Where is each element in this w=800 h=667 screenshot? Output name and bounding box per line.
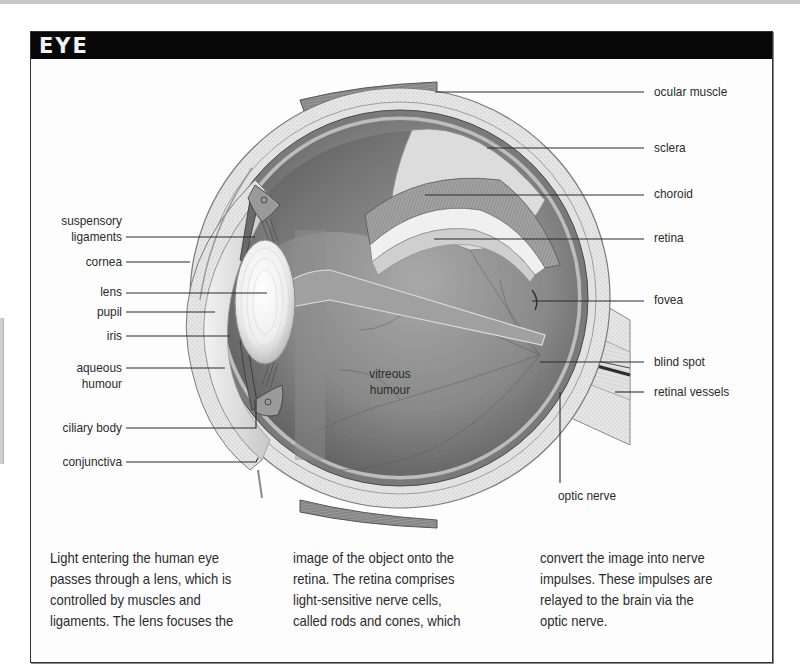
caption-line: controlled by muscles and (50, 590, 255, 611)
caption-line: Light entering the human eye (50, 548, 255, 569)
label-aqueous-humour: aqueous humour (34, 360, 122, 392)
caption-line: optic nerve. (540, 611, 745, 632)
label-retinal-vessels: retinal vessels (654, 384, 729, 400)
label-fovea: fovea (654, 292, 683, 308)
caption-line: ligaments. The lens focuses the (50, 611, 255, 632)
label-line: humour (34, 376, 122, 392)
label-choroid: choroid (654, 186, 693, 202)
caption-line: called rods and cones, which (293, 611, 498, 632)
label-line: vitreous (359, 366, 421, 382)
caption-line: retina. The retina comprises (293, 569, 498, 590)
label-optic-nerve: optic nerve (558, 488, 616, 504)
label-lens: lens (34, 284, 122, 300)
label-iris: iris (34, 328, 122, 344)
label-blind-spot: blind spot (654, 354, 705, 370)
label-vitreous-humour: vitreous humour (359, 366, 421, 398)
label-cornea: cornea (34, 254, 122, 270)
label-ciliary-body: ciliary body (34, 420, 122, 436)
label-line: aqueous (34, 360, 122, 376)
label-sclera: sclera (654, 140, 686, 156)
caption-line: image of the object onto the (293, 548, 498, 569)
label-conjunctiva: conjunctiva (34, 454, 122, 470)
caption-line: light-sensitive nerve cells, (293, 590, 498, 611)
panel-title: EYE (39, 34, 89, 58)
caption-column-2: image of the object onto the retina. The… (293, 548, 498, 632)
scan-top-edge (0, 0, 800, 4)
caption-line: impulses. These impulses are (540, 569, 745, 590)
panel-header: EYE (31, 32, 772, 59)
label-line: humour (359, 382, 421, 398)
label-pupil: pupil (34, 304, 122, 320)
label-suspensory-ligaments: suspensory ligaments (34, 213, 122, 245)
caption-line: relayed to the brain via the (540, 590, 745, 611)
label-retina: retina (654, 230, 684, 246)
caption-column-3: convert the image into nerve impulses. T… (540, 548, 745, 632)
caption-column-1: Light entering the human eye passes thro… (50, 548, 255, 632)
caption-line: convert the image into nerve (540, 548, 745, 569)
label-line: ligaments (34, 229, 122, 245)
label-ocular-muscle: ocular muscle (654, 84, 727, 100)
scan-left-edge-artifact (0, 318, 4, 464)
label-line: suspensory (34, 213, 122, 229)
caption-line: passes through a lens, which is (50, 569, 255, 590)
